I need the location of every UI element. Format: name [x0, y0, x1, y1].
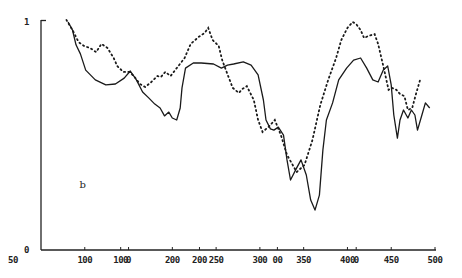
y-tick-label-1: 1	[24, 17, 29, 27]
x-tick-label: 0	[126, 255, 131, 265]
x-tick-label: 0	[354, 255, 359, 265]
x-tick-label: 400	[340, 255, 355, 265]
x-tick-label: 250	[209, 255, 224, 265]
series-line-solid	[68, 22, 430, 210]
axes	[41, 20, 436, 250]
x-tick-label: 450	[384, 255, 399, 265]
series-layer	[66, 20, 429, 210]
x-tick-label: 200	[165, 255, 180, 265]
x-tick-label: 00	[272, 255, 282, 265]
x-tick-label: 100	[77, 255, 92, 265]
series-line-dotted	[66, 20, 420, 172]
x-tick-label: 300	[253, 255, 268, 265]
x-tick-label: 500	[428, 255, 443, 265]
x-tick-label: 350	[296, 255, 311, 265]
y-tick-label-0: 0	[24, 245, 29, 255]
panel-label-b: b	[80, 179, 86, 190]
x-tick-label: 50	[8, 255, 18, 265]
x-tick-labels: 501001000200200250300003504000450500	[8, 255, 442, 265]
x-tick-label: 200	[192, 255, 207, 265]
chart: 1 0 501001000200200250300003504000450500…	[0, 0, 462, 278]
